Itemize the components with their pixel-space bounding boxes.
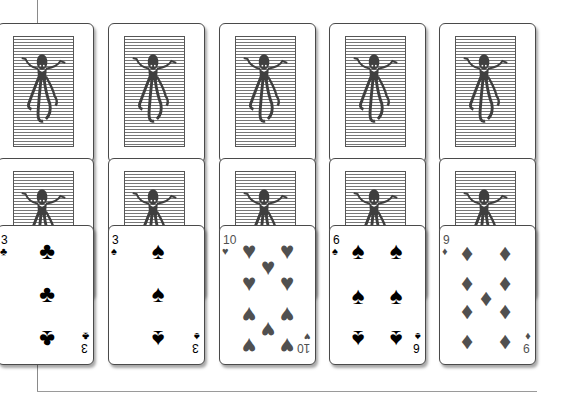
- spades-icon: ♠: [111, 246, 117, 257]
- diamonds-pip-icon: ♦: [461, 301, 473, 325]
- spades-pip-icon: ♠: [390, 327, 403, 351]
- octopus-icon: [14, 37, 73, 146]
- card-face-down-col4-1[interactable]: [329, 23, 426, 163]
- clubs-icon: ♣: [82, 331, 89, 342]
- card-9-of-diamonds[interactable]: 9♦9♦♦♦♦♦♦♦♦♦♦: [439, 225, 536, 365]
- spades-icon: ♠: [415, 331, 421, 342]
- card-back-pattern: [124, 36, 185, 147]
- rank-label-bottom: 9: [523, 342, 530, 354]
- diamonds-pip-icon: ♦: [461, 271, 473, 295]
- octopus-icon: [456, 37, 515, 146]
- spades-pip-icon: ♠: [152, 327, 165, 351]
- hearts-pip-icon: ♥: [280, 334, 294, 358]
- card-3-of-spades[interactable]: 3♠3♠♠♠♠: [108, 225, 205, 365]
- hearts-pip-icon: ♥: [242, 303, 256, 327]
- card-10-of-hearts[interactable]: 10♥10♥♥♥♥♥♥♥♥♥♥♥: [219, 225, 316, 365]
- spades-pip-icon: ♠: [152, 282, 165, 306]
- tableau-guide-line-horizontal: [37, 391, 537, 392]
- spades-pip-icon: ♠: [390, 239, 403, 263]
- diamonds-pip-icon: ♦: [480, 286, 492, 310]
- spades-icon: ♠: [194, 331, 200, 342]
- spades-pip-icon: ♠: [352, 284, 365, 308]
- diamonds-pip-icon: ♦: [499, 271, 511, 295]
- rank-label-bottom: 6: [413, 342, 420, 354]
- diamonds-pip-icon: ♦: [461, 241, 473, 265]
- hearts-pip-icon: ♥: [280, 271, 294, 295]
- rank-label-bottom: 3: [81, 342, 88, 354]
- spades-icon: ♠: [332, 246, 338, 257]
- hearts-pip-icon: ♥: [242, 239, 256, 263]
- hearts-pip-icon: ♥: [242, 271, 256, 295]
- card-6-of-spades[interactable]: 6♠6♠♠♠♠♠♠♠: [329, 225, 426, 365]
- rank-label-bottom: 3: [192, 342, 199, 354]
- clubs-pip-icon: ♣: [39, 327, 55, 351]
- spades-pip-icon: ♠: [390, 284, 403, 308]
- card-3-of-clubs[interactable]: 3♣3♣♣♣♣: [0, 225, 94, 365]
- spades-pip-icon: ♠: [152, 239, 165, 263]
- clubs-pip-icon: ♣: [39, 239, 55, 263]
- card-back-pattern: [13, 36, 74, 147]
- card-face-down-col1-1[interactable]: [0, 23, 94, 163]
- spades-pip-icon: ♠: [352, 327, 365, 351]
- card-back-pattern: [455, 36, 516, 147]
- hearts-icon: ♥: [304, 331, 311, 342]
- rank-label-bottom: 10: [297, 342, 310, 354]
- octopus-icon: [346, 37, 405, 146]
- hearts-pip-icon: ♥: [280, 239, 294, 263]
- hearts-pip-icon: ♥: [242, 334, 256, 358]
- hearts-pip-icon: ♥: [280, 303, 294, 327]
- hearts-pip-icon: ♥: [261, 318, 275, 342]
- card-back-pattern: [235, 36, 296, 147]
- diamonds-icon: ♦: [525, 331, 531, 342]
- card-face-down-col5-1[interactable]: [439, 23, 536, 163]
- diamonds-pip-icon: ♦: [461, 331, 473, 355]
- hearts-icon: ♥: [222, 246, 229, 257]
- card-face-down-col3-1[interactable]: [219, 23, 316, 163]
- card-face-down-col2-1[interactable]: [108, 23, 205, 163]
- hearts-pip-icon: ♥: [261, 255, 275, 279]
- diamonds-icon: ♦: [442, 246, 448, 257]
- spades-pip-icon: ♠: [352, 239, 365, 263]
- octopus-icon: [236, 37, 295, 146]
- clubs-icon: ♣: [0, 246, 7, 257]
- diamonds-pip-icon: ♦: [499, 241, 511, 265]
- diamonds-pip-icon: ♦: [499, 301, 511, 325]
- clubs-pip-icon: ♣: [39, 282, 55, 306]
- diamonds-pip-icon: ♦: [499, 331, 511, 355]
- card-back-pattern: [345, 36, 406, 147]
- octopus-icon: [125, 37, 184, 146]
